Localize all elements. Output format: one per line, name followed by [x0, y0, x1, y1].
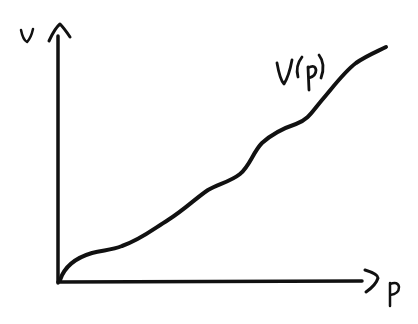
y-axis-label-glyph [21, 29, 33, 42]
x-axis-line [58, 281, 362, 282]
curve-label-glyph [277, 55, 323, 90]
chart [0, 0, 418, 324]
x-axis-label-glyph [390, 283, 399, 306]
x-axis-arrow-icon [365, 270, 378, 292]
curve-v-of-p [60, 47, 386, 280]
